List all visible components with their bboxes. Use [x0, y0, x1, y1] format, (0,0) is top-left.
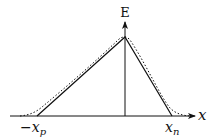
x-axis-label: x	[198, 106, 207, 124]
field-diagram: E x −xp xn	[0, 0, 211, 139]
triangular-field-curve	[37, 37, 172, 116]
xp-marker-label: −xp	[20, 119, 47, 137]
xn-symbol: x	[165, 119, 173, 135]
actual-field-curve	[20, 37, 192, 116]
xn-subscript: n	[173, 126, 179, 137]
e-axis-label: E	[120, 5, 130, 20]
xn-marker-label: xn	[165, 119, 179, 137]
xp-sign: −	[20, 119, 32, 135]
xp-symbol: x	[32, 119, 40, 135]
xp-subscript: p	[40, 126, 47, 137]
